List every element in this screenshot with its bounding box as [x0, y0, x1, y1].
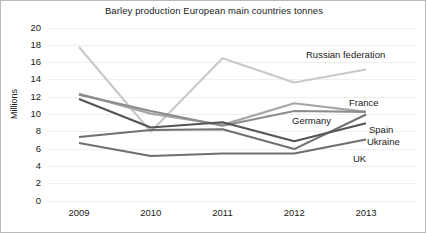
y-tick-label: 18	[19, 39, 41, 50]
y-tick-label: 0	[19, 195, 41, 206]
y-tick-label: 20	[19, 22, 41, 33]
y-tick-label: 8	[19, 125, 41, 136]
series-label-france: France	[349, 97, 379, 108]
y-tick-label: 6	[19, 143, 41, 154]
y-tick-label: 14	[19, 73, 41, 84]
data-line-uk	[79, 140, 366, 156]
y-tick-label: 4	[19, 160, 41, 171]
x-tick-label: 2009	[59, 207, 99, 218]
series-label-germany: Germany	[292, 115, 331, 126]
series-label-uk: UK	[353, 153, 366, 164]
series-label-russian-federation: Russian federation	[306, 49, 385, 60]
x-tick-label: 2011	[203, 207, 243, 218]
x-tick-label: 2010	[131, 207, 171, 218]
x-tick-label: 2013	[346, 207, 386, 218]
x-tick-label: 2012	[274, 207, 314, 218]
series-label-ukraine: Ukraine	[367, 136, 400, 147]
plot-area	[1, 1, 426, 233]
data-series-group	[79, 47, 366, 156]
y-tick-label: 10	[19, 108, 41, 119]
y-tick-label: 12	[19, 91, 41, 102]
y-tick-label: 2	[19, 177, 41, 188]
y-tick-label: 16	[19, 56, 41, 67]
barley-production-line-chart: Barley production European main countrie…	[0, 0, 426, 233]
series-label-spain: Spain	[369, 124, 393, 135]
